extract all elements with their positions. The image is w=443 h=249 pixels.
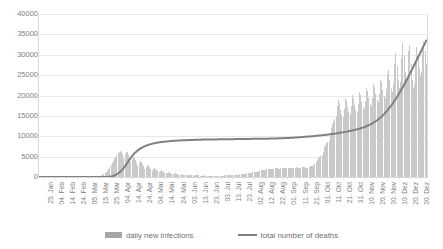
x-axis-tick-mark [132,177,133,179]
line-swatch-icon [238,234,257,236]
y-axis-tick-label: 35000 [2,30,38,38]
x-axis-tick-mark [44,177,45,179]
x-axis-tick-label: 14. Mai [168,182,175,204]
x-axis-tick-label: 01. Sep [290,182,297,205]
x-axis-tick-label: 10. Nov [368,182,375,205]
x-axis-tick-mark [254,177,255,179]
x-axis-tick-label: 25. Mar [113,182,120,204]
x-axis-tick-label: 24. Mai [180,182,187,204]
legend-item-daily-new-infections[interactable]: daily new infections [105,231,194,240]
x-axis-tick-mark [221,177,222,179]
x-axis-tick-label: 31. Okt [357,182,364,203]
x-axis-tick-mark [276,177,277,179]
x-axis-tick-label: 03. Jun [191,182,198,204]
plot-area [39,15,427,177]
x-axis-tick-mark [332,177,333,179]
y-axis-tick-label: 15000 [2,112,38,120]
y-axis-tick-label: 40000 [2,10,38,18]
x-axis-tick-label: 11. Sep [302,182,309,204]
x-axis-tick-label: 15. Mar [102,182,109,204]
x-axis-tick-mark [343,177,344,179]
x-axis-tick-mark [188,177,189,179]
x-axis-tick-mark [77,177,78,179]
x-axis-tick-label: 20. Dez [412,182,419,205]
x-axis-tick-mark [88,177,89,179]
y-axis-tick-label: 10000 [2,132,38,140]
x-axis-tick-label: 04. Mai [157,182,164,204]
x-axis-tick-mark [110,177,111,179]
x-axis-tick-label: 22. Aug [279,182,286,204]
x-axis-tick-label: 10. Dez [401,182,408,205]
x-axis-tick-mark [321,177,322,179]
x-axis-tick-mark [354,177,355,179]
x-axis-tick-mark [232,177,233,179]
y-axis: 4000035000300002500020000150001000050000 [0,0,38,192]
x-axis-tick-label: 21. Okt [346,182,353,203]
legend-item-total-number-of-deaths[interactable]: total number of deaths [238,231,339,240]
x-axis-tick-mark [265,177,266,179]
bar [53,177,54,178]
bar [82,177,83,178]
x-axis-line [38,177,428,178]
x-axis-tick-mark [154,177,155,179]
x-axis-tick-label: 14. Apr [135,182,142,203]
x-axis-tick-mark [310,177,311,179]
x-axis-tick-label: 13. Jun [202,182,209,204]
y-axis-tick-label: 30000 [2,51,38,59]
bar-swatch-icon [105,232,122,238]
x-axis-tick-mark [287,177,288,179]
x-axis-tick-mark [420,177,421,179]
x-axis-tick-label: 24. Feb [80,182,87,204]
x-axis-tick-mark [398,177,399,179]
x-axis-tick-mark [143,177,144,179]
x-axis-tick-mark [210,177,211,179]
bar [58,177,59,178]
x-axis: 25. Jan04. Feb14. Feb24. Feb05. Mar15. M… [38,179,428,225]
x-axis-tick-label: 24. Apr [146,182,153,203]
x-axis-tick-mark [365,177,366,179]
x-axis-tick-mark [376,177,377,179]
x-axis-tick-label: 21. Sep [313,182,320,205]
x-axis-tick-label: 30. Nov [390,182,397,205]
y-axis-tick-label: 25000 [2,71,38,79]
x-axis-tick-mark [409,177,410,179]
x-axis-tick-mark [387,177,388,179]
x-axis-tick-label: 20. Nov [379,182,386,205]
x-axis-tick-mark [55,177,56,179]
x-axis-tick-label: 11. Okt [335,182,342,203]
x-axis-tick-label: 01. Okt [324,182,331,203]
x-axis-tick-label: 04. Apr [124,182,131,203]
x-axis-tick-label: 23. Jul [246,182,253,201]
x-axis-tick-label: 02. Aug [257,182,264,204]
y-axis-tick-label: 5000 [2,153,38,161]
covid-chart: 4000035000300002500020000150001000050000… [0,0,443,249]
x-axis-tick-mark [177,177,178,179]
bar [426,64,427,177]
x-axis-tick-label: 12. Aug [268,182,275,204]
x-axis-tick-label: 13. Jul [235,182,242,201]
x-axis-tick-mark [243,177,244,179]
x-axis-tick-label: 05. Mar [91,182,98,204]
x-axis-tick-label: 25. Jan [47,182,54,204]
legend-label-infections: daily new infections [126,231,194,240]
y-axis-tick-label: 0 [2,173,38,181]
x-axis-tick-mark [99,177,100,179]
x-axis-tick-mark [199,177,200,179]
x-axis-tick-label: 04. Feb [58,182,65,204]
x-axis-tick-label: 03. Jul [224,182,231,201]
x-axis-tick-mark [66,177,67,179]
x-axis-tick-label: 23. Jun [213,182,220,204]
x-axis-tick-label: 30. Dez [423,182,430,205]
x-axis-tick-mark [121,177,122,179]
bar [51,177,52,178]
chart-legend: daily new infections total number of dea… [0,228,443,242]
x-axis-tick-mark [165,177,166,179]
bar [79,177,80,178]
x-axis-tick-mark [299,177,300,179]
legend-label-deaths: total number of deaths [261,231,339,240]
x-axis-tick-label: 14. Feb [69,182,76,204]
y-axis-tick-label: 20000 [2,92,38,100]
